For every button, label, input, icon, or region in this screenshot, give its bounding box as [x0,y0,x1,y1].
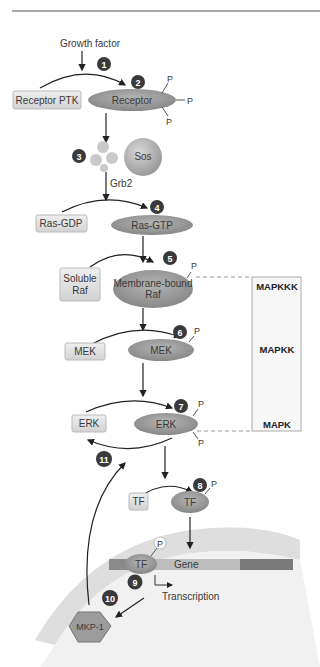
svg-text:Membrane-bound: Membrane-bound [114,278,193,289]
mapk-label: MAPK [263,419,291,430]
svg-text:5: 5 [167,254,172,264]
svg-text:Ras-GTP: Ras-GTP [131,220,173,231]
svg-text:Receptor: Receptor [112,95,153,106]
svg-text:6: 6 [177,328,182,338]
mapkkk-label: MAPKKK [256,281,298,292]
svg-text:P: P [166,117,172,127]
svg-text:Raf: Raf [72,285,88,296]
svg-text:ERK: ERK [156,419,177,430]
svg-text:P: P [167,74,173,84]
svg-text:7: 7 [178,402,183,412]
svg-text:TF: TF [135,559,147,570]
svg-text:P: P [211,479,217,489]
svg-text:P: P [198,438,204,448]
svg-text:Raf: Raf [145,289,161,300]
svg-text:1: 1 [101,60,106,70]
gene-label: Gene [174,559,199,570]
transcription-label: Transcription [162,591,219,602]
svg-text:10: 10 [105,594,115,604]
svg-text:MEK: MEK [74,346,96,357]
growth-factor-label: Growth factor [60,38,121,49]
svg-text:P: P [198,399,204,409]
svg-text:2: 2 [135,78,140,88]
gene-bar-dark [240,559,293,570]
svg-text:Receptor PTK: Receptor PTK [16,95,79,106]
svg-text:MEK: MEK [150,345,172,356]
svg-text:TF: TF [132,496,144,507]
grb2-shape [90,141,118,172]
svg-text:4: 4 [154,203,159,213]
svg-text:9: 9 [132,578,137,588]
svg-text:P: P [191,261,197,271]
svg-text:Ras-GDP: Ras-GDP [40,218,83,229]
svg-text:8: 8 [197,481,202,491]
svg-text:MKP-1: MKP-1 [76,622,104,632]
svg-text:Sos: Sos [134,151,151,162]
svg-text:P: P [187,96,193,106]
svg-text:ERK: ERK [79,418,100,429]
svg-text:11: 11 [99,455,109,465]
svg-text:Grb2: Grb2 [110,178,133,189]
mapkk-label: MAPKK [260,344,295,355]
svg-text:TF: TF [184,497,196,508]
svg-text:Soluble: Soluble [63,273,97,284]
svg-text:3: 3 [76,152,81,162]
mapk-pathway-diagram: Growth factor 1 Receptor PTK Receptor 2 … [0,0,320,667]
svg-text:P: P [157,539,163,549]
svg-text:P: P [194,326,200,336]
